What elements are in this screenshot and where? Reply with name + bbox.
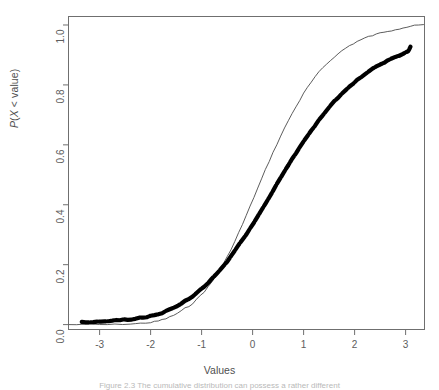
y-tick-label: 0.6	[55, 143, 66, 169]
x-tick-label: -1	[189, 339, 215, 350]
figure-caption: Figure 2.3 The cumulative distribution c…	[0, 381, 439, 390]
y-tick-label: 0.2	[55, 263, 66, 289]
y-tick-label: 0.0	[55, 323, 66, 349]
x-tick-label: 1	[291, 339, 317, 350]
y-tick-label: 1.0	[55, 23, 66, 49]
x-tick-label: 3	[393, 339, 419, 350]
data-series-layer	[69, 25, 423, 325]
y-axis-title-rest: < value)	[8, 69, 20, 110]
series-theoretical-cdf-thick	[82, 46, 411, 322]
x-axis-title: Values	[0, 364, 439, 376]
y-axis-title-p: P	[8, 121, 20, 128]
y-tick-label: 0.4	[55, 203, 66, 229]
y-axis-title-var: X	[8, 110, 20, 117]
x-tick-label: -2	[138, 339, 164, 350]
y-axis-title: P(X < value)	[8, 8, 20, 128]
tick-marks	[63, 25, 406, 335]
x-tick-label: 0	[240, 339, 266, 350]
y-tick-label: 0.8	[55, 83, 66, 109]
x-tick-label: 2	[342, 339, 368, 350]
x-tick-label: -3	[87, 339, 113, 350]
y-axis-title-open: (	[8, 117, 20, 121]
